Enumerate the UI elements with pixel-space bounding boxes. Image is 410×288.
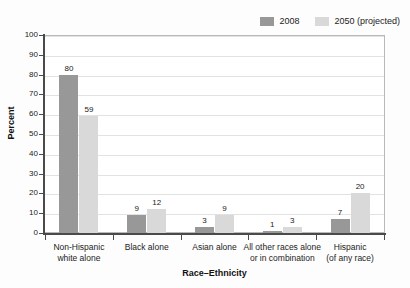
x-axis-tick-mark [248, 235, 249, 240]
bars-layer: 80599123913720 [45, 35, 384, 233]
bar [59, 75, 78, 233]
x-axis-category-line: white alone [37, 253, 121, 264]
x-axis-title: Race–Ethnicity [44, 268, 385, 278]
x-axis-category-line: Hispanic [308, 242, 392, 253]
legend-swatch-2008 [260, 17, 274, 26]
bar-value-label: 3 [277, 217, 307, 225]
bar-value-label: 59 [74, 106, 104, 114]
bar-value-label: 12 [142, 199, 172, 207]
x-axis-tick-mark [113, 235, 114, 240]
x-axis-tick-mark [181, 235, 182, 240]
y-axis-tick-label: 80 [0, 71, 38, 79]
x-axis-tick-mark [316, 235, 317, 240]
legend-entry-2008: 2008 [260, 16, 299, 26]
chart-legend: 2008 2050 (projected) [260, 14, 400, 28]
y-axis-tick-label: 90 [0, 51, 38, 59]
y-axis-title: Percent [6, 95, 16, 151]
y-axis-tick-label: 0 [0, 229, 38, 237]
bar [79, 116, 98, 233]
bar-group: 8059 [45, 35, 113, 233]
legend-entry-2050: 2050 (projected) [315, 16, 400, 26]
x-axis-tick-mark [384, 235, 385, 240]
bar [351, 193, 370, 233]
bar [331, 219, 350, 233]
bar-value-label: 20 [345, 183, 375, 191]
bar-chart: 2008 2050 (projected) 010203040506070809… [0, 0, 410, 288]
y-axis-tick-label: 30 [0, 170, 38, 178]
bar [127, 215, 146, 233]
bar [147, 209, 166, 233]
bar-value-label: 9 [209, 205, 239, 213]
bar [215, 215, 234, 233]
x-axis-line [43, 233, 386, 235]
y-axis-tick-label: 100 [0, 31, 38, 39]
y-axis-tick-label: 20 [0, 189, 38, 197]
x-axis-tick-mark [45, 235, 46, 240]
bar-group: 13 [248, 35, 316, 233]
x-axis-category-line: (of any race) [308, 253, 392, 264]
x-axis-category-label: Hispanic(of any race) [308, 242, 392, 264]
y-axis-tick-label: 10 [0, 209, 38, 217]
bar-group: 720 [316, 35, 384, 233]
legend-label-2050: 2050 (projected) [334, 16, 400, 26]
bar-value-label: 80 [54, 65, 84, 73]
bar-group: 912 [113, 35, 181, 233]
bar-group: 39 [181, 35, 249, 233]
legend-swatch-2050 [315, 17, 329, 26]
legend-label-2008: 2008 [279, 16, 299, 26]
